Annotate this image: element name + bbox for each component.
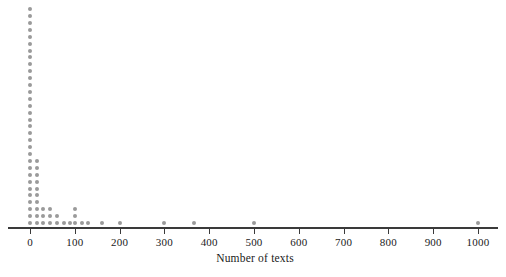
data-dot <box>28 166 32 170</box>
x-axis-tick <box>344 229 345 234</box>
data-dot <box>28 35 32 39</box>
data-dot <box>28 200 32 204</box>
data-dot <box>28 159 32 163</box>
x-axis-tick <box>299 229 300 234</box>
data-dot <box>28 111 32 115</box>
data-dot <box>28 76 32 80</box>
data-dot <box>28 131 32 135</box>
data-dot <box>55 214 59 218</box>
data-dot <box>28 145 32 149</box>
data-dot <box>35 180 39 184</box>
x-axis-tick-label: 200 <box>111 236 128 248</box>
dotplot-figure: 01002003004005006007008009001000Number o… <box>0 0 506 277</box>
data-dot <box>73 221 77 225</box>
x-axis-tick-label: 0 <box>27 236 33 248</box>
data-dot <box>35 159 39 163</box>
data-dot <box>28 152 32 156</box>
data-dot <box>28 62 32 66</box>
data-dot <box>41 207 45 211</box>
data-dot <box>28 104 32 108</box>
data-dot <box>28 90 32 94</box>
x-axis-tick-label: 600 <box>290 236 307 248</box>
data-dot <box>28 7 32 11</box>
data-dot <box>28 21 32 25</box>
data-dot <box>28 97 32 101</box>
data-dot <box>28 173 32 177</box>
data-dot <box>35 221 39 225</box>
x-axis-tick <box>433 229 434 234</box>
x-axis-tick-label: 700 <box>335 236 352 248</box>
x-axis-tick-label: 900 <box>425 236 442 248</box>
data-dot <box>28 214 32 218</box>
x-axis-tick-label: 300 <box>156 236 173 248</box>
data-dot <box>28 180 32 184</box>
data-dot <box>28 187 32 191</box>
data-dot <box>73 214 77 218</box>
data-dot <box>28 55 32 59</box>
data-dot <box>41 221 45 225</box>
data-dot <box>28 49 32 53</box>
data-dot <box>68 221 72 225</box>
data-dot <box>192 221 196 225</box>
data-dot <box>41 214 45 218</box>
x-axis-line <box>8 227 498 229</box>
x-axis-title: Number of texts <box>216 252 294 264</box>
data-dot <box>48 207 52 211</box>
data-dot <box>28 118 32 122</box>
data-dot <box>86 221 90 225</box>
data-dot <box>62 221 66 225</box>
data-dot <box>35 207 39 211</box>
data-dot <box>476 221 480 225</box>
data-dot <box>35 193 39 197</box>
x-axis-tick <box>254 229 255 234</box>
data-dot <box>48 214 52 218</box>
x-axis-tick <box>120 229 121 234</box>
data-dot <box>28 124 32 128</box>
data-dot <box>28 28 32 32</box>
x-axis-tick <box>164 229 165 234</box>
data-dot <box>28 42 32 46</box>
x-axis-tick <box>388 229 389 234</box>
x-axis-tick-label: 400 <box>201 236 218 248</box>
data-dot <box>28 83 32 87</box>
data-dot <box>55 221 59 225</box>
data-dot <box>28 138 32 142</box>
data-dot <box>35 200 39 204</box>
data-dot <box>28 69 32 73</box>
data-dot <box>162 221 166 225</box>
x-axis-tick-label: 1000 <box>467 236 490 248</box>
data-dot <box>80 221 84 225</box>
x-axis-tick-label: 100 <box>66 236 83 248</box>
data-dot <box>252 221 256 225</box>
data-dot <box>28 193 32 197</box>
data-dot <box>35 173 39 177</box>
data-dot <box>35 166 39 170</box>
x-axis-tick <box>209 229 210 234</box>
data-dot <box>73 207 77 211</box>
x-axis-tick-label: 500 <box>245 236 262 248</box>
x-axis-tick <box>75 229 76 234</box>
x-axis-tick-label: 800 <box>380 236 397 248</box>
data-dot <box>28 221 32 225</box>
data-dot <box>118 221 122 225</box>
data-dot <box>48 221 52 225</box>
data-dot <box>35 187 39 191</box>
data-dot <box>28 207 32 211</box>
x-axis-tick <box>30 229 31 234</box>
x-axis-tick <box>478 229 479 234</box>
data-dot <box>35 214 39 218</box>
data-dot <box>28 14 32 18</box>
data-dot <box>100 221 104 225</box>
plot-area: 01002003004005006007008009001000Number o… <box>0 0 506 277</box>
